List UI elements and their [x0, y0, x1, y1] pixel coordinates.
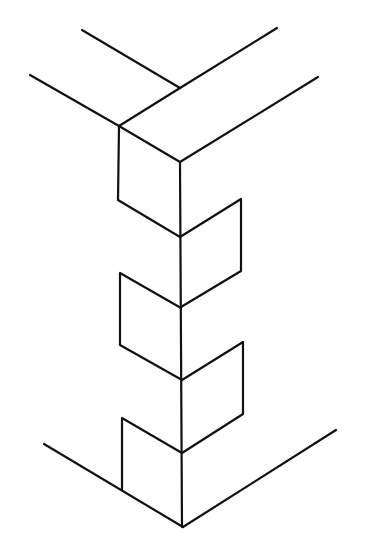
bottom-left-edge: [44, 444, 183, 527]
top-back-left-edge: [82, 30, 180, 88]
top-front-right-edge: [180, 77, 318, 162]
top-front-left-edge: [30, 75, 119, 126]
diagram-canvas: [0, 0, 365, 553]
notch-5-left: [122, 418, 182, 490]
corner-joint-drawing: [0, 0, 365, 553]
top-inner-edge: [119, 88, 180, 126]
notch-2-right: [180, 199, 241, 307]
top-back-right-edge: [180, 28, 277, 88]
center-vertical-edge: [180, 162, 182, 527]
notch-4-right: [182, 342, 243, 453]
top-front-corner-edge: [119, 126, 180, 162]
bottom-right-edge: [183, 430, 336, 527]
notch-3-left: [120, 273, 182, 380]
